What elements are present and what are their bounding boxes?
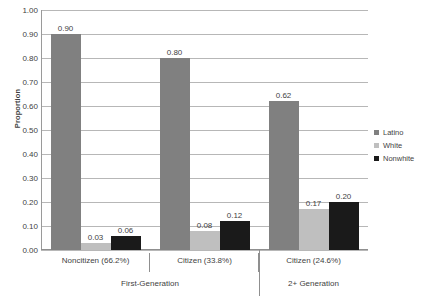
bar-slot: 0.03: [81, 10, 111, 250]
bar-set: 0.620.170.20: [259, 10, 368, 250]
legend-label: Nonwhite: [383, 154, 414, 163]
y-tick-label: 0.30: [8, 174, 38, 183]
legend-item-white[interactable]: White: [374, 139, 426, 152]
generation-label-row: First-Generation2+ Generation: [41, 272, 368, 296]
bar-value-label: 0.03: [88, 233, 104, 242]
bar-value-label: 0.90: [58, 24, 74, 33]
y-tick-label: 0.40: [8, 150, 38, 159]
bar-value-label: 0.80: [167, 48, 183, 57]
bar-white[interactable]: [81, 243, 111, 250]
bar-white[interactable]: [299, 209, 329, 250]
plot-area: 0.900.030.060.800.080.120.620.170.20: [41, 10, 368, 250]
y-tick-label: 0.70: [8, 78, 38, 87]
bar-latino[interactable]: [160, 58, 190, 250]
bar-slot: 0.20: [329, 10, 359, 250]
bar-value-label: 0.62: [276, 91, 292, 100]
category-axis: Noncitizen (66.2%)Citizen (33.8%)Citizen…: [41, 250, 368, 299]
legend-item-latino[interactable]: Latino: [374, 126, 426, 139]
bar-slot: 0.90: [51, 10, 81, 250]
legend-swatch-icon: [374, 156, 379, 161]
y-tick-label: 0.80: [8, 54, 38, 63]
bar-group: 0.620.170.20: [259, 10, 368, 250]
bar-slot: 0.06: [111, 10, 141, 250]
y-tick-label: 0.10: [8, 222, 38, 231]
generation-label: First-Generation: [41, 272, 259, 296]
bar-nonwhite[interactable]: [111, 236, 141, 250]
bar-latino[interactable]: [269, 101, 299, 250]
bar-value-label: 0.12: [227, 211, 243, 220]
bar-chart: Proportion 0.000.100.200.300.400.500.600…: [0, 0, 426, 299]
category-label: Noncitizen (66.2%): [41, 250, 150, 272]
y-tick-label: 0.00: [8, 246, 38, 255]
y-tick-label: 0.20: [8, 198, 38, 207]
y-axis-tick-labels: 0.000.100.200.300.400.500.600.700.800.90…: [8, 10, 38, 250]
generation-label: 2+ Generation: [259, 272, 368, 296]
legend-item-nonwhite[interactable]: Nonwhite: [374, 152, 426, 165]
bar-nonwhite[interactable]: [329, 202, 359, 250]
category-label: Citizen (24.6%): [259, 250, 368, 272]
bar-value-label: 0.17: [306, 199, 322, 208]
bar-set: 0.900.030.06: [41, 10, 150, 250]
bar-group: 0.900.030.06: [41, 10, 150, 250]
bar-latino[interactable]: [51, 34, 81, 250]
legend-swatch-icon: [374, 130, 379, 135]
bar-slot: 0.80: [160, 10, 190, 250]
bar-slot: 0.12: [220, 10, 250, 250]
category-label: Citizen (33.8%): [150, 250, 259, 272]
bar-set: 0.800.080.12: [150, 10, 259, 250]
bar-value-label: 0.06: [118, 226, 134, 235]
bar-white[interactable]: [190, 231, 220, 250]
legend-swatch-icon: [374, 143, 379, 148]
bar-value-label: 0.08: [197, 221, 213, 230]
y-tick-label: 0.50: [8, 126, 38, 135]
legend-label: Latino: [383, 128, 403, 137]
bar-group: 0.800.080.12: [150, 10, 259, 250]
y-tick-label: 0.90: [8, 30, 38, 39]
bar-value-label: 0.20: [336, 192, 352, 201]
bar-slot: 0.08: [190, 10, 220, 250]
y-tick-label: 0.60: [8, 102, 38, 111]
bar-groups: 0.900.030.060.800.080.120.620.170.20: [41, 10, 368, 250]
category-label-row: Noncitizen (66.2%)Citizen (33.8%)Citizen…: [41, 250, 368, 272]
bar-slot: 0.62: [269, 10, 299, 250]
legend-label: White: [383, 141, 402, 150]
generation-separator: [259, 250, 260, 296]
chart-legend: LatinoWhiteNonwhite: [374, 126, 426, 165]
y-tick-label: 1.00: [8, 6, 38, 15]
bar-nonwhite[interactable]: [220, 221, 250, 250]
bar-slot: 0.17: [299, 10, 329, 250]
